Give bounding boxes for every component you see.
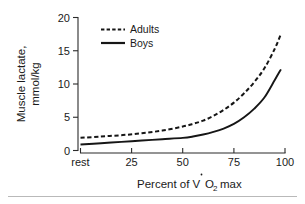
series-line-adults: [81, 34, 281, 138]
y-tick-label-0: 0: [64, 145, 70, 157]
x-tick-label-75: 75: [228, 156, 240, 168]
x-axis-title-pre: Percent of V: [137, 178, 201, 190]
x-tick-label-rest: rest: [71, 156, 89, 168]
x-axis: rest 25 50 75 100: [71, 148, 294, 168]
x-tick-label-100: 100: [276, 156, 294, 168]
x-tick-label-50: 50: [177, 156, 189, 168]
chart-legend: Adults Boys: [101, 23, 159, 49]
y-tick-label-20: 20: [58, 12, 70, 24]
vdot-icon: [201, 174, 203, 176]
y-tick-label-15: 15: [58, 45, 70, 57]
y-tick-label-5: 5: [64, 111, 70, 123]
x-axis-title-post: max: [220, 178, 242, 190]
series-line-boys: [81, 69, 281, 144]
legend-label-boys: Boys: [130, 37, 153, 49]
y-axis-title: Muscle lactate, mmol/kg: [15, 46, 41, 123]
y-axis-title-line2: mmol/kg: [29, 62, 41, 105]
lactate-vs-vo2max-chart: 20 15 10 5 0 Muscle lactate, mmol/kg res…: [0, 0, 305, 204]
y-axis: 20 15 10 5 0: [58, 12, 78, 157]
x-axis-title-subscript: 2: [213, 184, 218, 193]
x-axis-title: Percent of V O 2 max: [137, 174, 242, 193]
chart-figure: 20 15 10 5 0 Muscle lactate, mmol/kg res…: [0, 0, 305, 204]
legend-label-adults: Adults: [130, 23, 159, 35]
y-tick-label-10: 10: [58, 78, 70, 90]
x-tick-label-25: 25: [125, 156, 137, 168]
y-axis-title-line1: Muscle lactate,: [15, 46, 27, 123]
data-series-group: [81, 34, 281, 144]
